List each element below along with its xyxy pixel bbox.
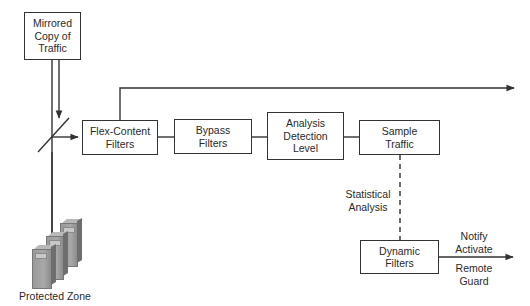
node-protected-zone-label: Protected Zone (10, 290, 100, 303)
server-icon-front (32, 249, 52, 289)
node-mirrored-copy: Mirrored Copy of Traffic (24, 12, 81, 60)
node-analysis-label: Analysis Detection Level (283, 117, 327, 155)
node-analysis-detection-level: Analysis Detection Level (267, 112, 344, 160)
node-flex-content-filters: Flex-Content Filters (82, 120, 158, 155)
node-dynamic-filters-label: Dynamic Filters (379, 245, 420, 270)
node-dynamic-filters: Dynamic Filters (360, 240, 439, 274)
node-bypass-filters: Bypass Filters (174, 119, 252, 154)
edge-label-remote-guard: Remote Guard (446, 262, 502, 287)
node-flex-content-label: Flex-Content Filters (90, 125, 150, 150)
edge-label-statistical-analysis: Statistical Analysis (340, 188, 396, 213)
edge-label-notify-activate: Notify Activate (446, 230, 502, 255)
node-mirrored-copy-label: Mirrored Copy of Traffic (33, 17, 72, 55)
diagram-canvas: Mirrored Copy of Traffic Flex-Content Fi… (0, 0, 530, 306)
splitter-mirror-line (38, 118, 69, 152)
node-sample-traffic-label: Sample Traffic (382, 125, 418, 150)
node-sample-traffic: Sample Traffic (359, 120, 440, 155)
node-bypass-label: Bypass Filters (196, 124, 230, 149)
